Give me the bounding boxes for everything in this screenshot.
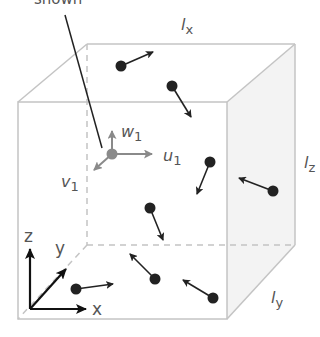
box-diagram: shown lx lz ly w1 u1 v1 z: [0, 0, 320, 337]
particle-1: [116, 52, 154, 72]
cube-side-face: [227, 44, 295, 319]
x-axis-label: x: [92, 299, 102, 319]
y-axis-arrow: [30, 269, 66, 309]
particle-8: [71, 284, 114, 295]
v1-label: v1: [61, 172, 79, 194]
y-axis-label: y: [55, 238, 65, 258]
particle-7: [183, 280, 219, 304]
w1-label: w1: [121, 122, 142, 144]
particle-5: [145, 203, 164, 241]
particle-3: [197, 157, 216, 195]
global-axes: [30, 249, 86, 309]
particle-6: [130, 254, 161, 285]
u1-label: u1: [163, 146, 181, 168]
z-axis-label: z: [24, 226, 33, 246]
length-label-x: lx: [181, 15, 193, 37]
particle-2: [167, 81, 192, 118]
callout-label: shown: [34, 0, 82, 8]
callout-line: [65, 15, 102, 148]
length-label-y: ly: [271, 288, 283, 310]
origin-particle: [107, 149, 118, 160]
length-label-z: lz: [304, 153, 315, 175]
